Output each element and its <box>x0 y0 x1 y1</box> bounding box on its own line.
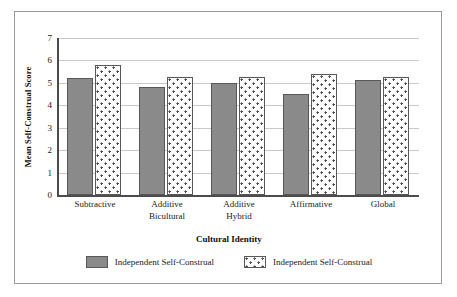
x-axis-category-label-line: Hybrid <box>203 211 275 223</box>
y-axis-title-label: Mean Self-Construal Score <box>23 67 33 168</box>
x-axis-category-label: Affirmative <box>275 199 347 211</box>
bar[interactable] <box>139 87 165 195</box>
x-axis-category-label-line: Affirmative <box>275 199 347 211</box>
x-axis-category-label: AdditiveHybrid <box>203 199 275 222</box>
bar-group <box>59 38 131 195</box>
bar[interactable] <box>283 94 309 195</box>
y-axis-tick-label: 3 <box>48 123 53 132</box>
bar[interactable] <box>95 65 121 195</box>
bar[interactable] <box>167 77 193 195</box>
bars-layer <box>59 38 419 195</box>
x-axis-category-label-line: Subtractive <box>59 199 131 211</box>
y-axis-tick-label: 5 <box>48 78 53 87</box>
y-axis-tick-label: 4 <box>48 101 53 110</box>
figure-frame: Mean Self-Construal Score 01234567 Subtr… <box>14 11 442 284</box>
bar[interactable] <box>67 78 93 195</box>
x-axis-category-label: Global <box>347 199 419 211</box>
bar-group <box>203 38 275 195</box>
y-axis-tick-label: 1 <box>48 168 53 177</box>
legend-label: Independent Self-Construal <box>273 257 372 267</box>
plot-area: 01234567 <box>57 38 419 196</box>
bar[interactable] <box>383 77 409 195</box>
bar[interactable] <box>311 74 337 195</box>
legend-label: Independent Self-Construal <box>115 257 214 267</box>
y-axis-tick-label: 0 <box>48 191 53 200</box>
legend-swatch <box>244 256 266 268</box>
x-axis-category-label-line: Bicultural <box>131 211 203 223</box>
y-axis-tick-label: 7 <box>48 34 53 43</box>
y-axis-title: Mean Self-Construal Score <box>21 38 35 196</box>
bar[interactable] <box>211 83 237 195</box>
y-axis-tick-label: 6 <box>48 56 53 65</box>
x-axis-category-label-line: Global <box>347 199 419 211</box>
x-axis-line <box>57 195 419 197</box>
y-axis-tick-label: 2 <box>48 146 53 155</box>
x-axis-title: Cultural Identity <box>15 234 443 244</box>
x-axis-category-label: Subtractive <box>59 199 131 211</box>
chart-legend: Independent Self-ConstrualIndependent Se… <box>15 256 443 268</box>
legend-swatch <box>86 256 108 268</box>
x-axis-category-label: AdditiveBicultural <box>131 199 203 222</box>
bar-group <box>131 38 203 195</box>
bar-group <box>347 38 419 195</box>
bar[interactable] <box>239 77 265 195</box>
x-axis-category-label-line: Additive <box>131 199 203 211</box>
legend-entry[interactable]: Independent Self-Construal <box>86 256 214 268</box>
bar[interactable] <box>355 80 381 196</box>
x-axis-category-label-line: Additive <box>203 199 275 211</box>
bar-group <box>275 38 347 195</box>
legend-entry[interactable]: Independent Self-Construal <box>244 256 372 268</box>
x-axis-category-labels: SubtractiveAdditiveBiculturalAdditiveHyb… <box>59 199 419 231</box>
